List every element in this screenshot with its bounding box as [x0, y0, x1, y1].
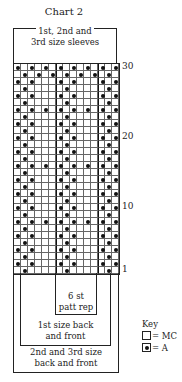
chart-cell-mc [84, 176, 91, 183]
chart-cell-a [98, 260, 105, 267]
chart-cell-mc [91, 120, 98, 127]
chart-cell-mc [42, 134, 49, 141]
chart-cell-mc [56, 155, 63, 162]
chart-cell-mc [91, 106, 98, 113]
chart-cell-a [56, 64, 63, 71]
chart-cell-mc [70, 85, 77, 92]
chart-cell-mc [112, 71, 119, 78]
chart-cell-a [21, 113, 28, 120]
chart-cell-a [84, 106, 91, 113]
chart-cell-mc [35, 246, 42, 253]
chart-cell-mc [28, 169, 35, 176]
chart-cell-mc [35, 232, 42, 239]
chart-cell-mc [70, 127, 77, 134]
chart-cell-mc [35, 99, 42, 106]
chart-cell-mc [42, 141, 49, 148]
chart-cell-mc [42, 260, 49, 267]
chart-cell-mc [42, 113, 49, 120]
chart-cell-mc [14, 85, 21, 92]
chart-cell-mc [112, 169, 119, 176]
chart-cell-mc [112, 183, 119, 190]
chart-cell-mc [105, 162, 112, 169]
chart-cell-mc [49, 218, 56, 225]
chart-cell-mc [49, 85, 56, 92]
chart-cell-mc [105, 120, 112, 127]
chart-cell-a [112, 232, 119, 239]
chart-cell-mc [98, 127, 105, 134]
chart-cell-a [14, 176, 21, 183]
chart-cell-a [112, 148, 119, 155]
chart-cell-a [63, 99, 70, 106]
chart-cell-mc [91, 190, 98, 197]
chart-cell-mc [112, 113, 119, 120]
chart-cell-mc [35, 64, 42, 71]
chart-cell-mc [56, 169, 63, 176]
chart-cell-a [63, 85, 70, 92]
chart-cell-a [98, 64, 105, 71]
chart-cell-mc [14, 113, 21, 120]
chart-cell-a [21, 197, 28, 204]
chart-cell-mc [105, 246, 112, 253]
chart-cell-mc [91, 92, 98, 99]
chart-cell-mc [21, 134, 28, 141]
chart-cell-a [21, 127, 28, 134]
chart-cell-mc [35, 127, 42, 134]
chart-cell-a [98, 162, 105, 169]
chart-cell-mc [70, 169, 77, 176]
chart-cell-mc [70, 197, 77, 204]
chart-cell-mc [42, 225, 49, 232]
chart-cell-mc [70, 253, 77, 260]
chart-cell-mc [91, 64, 98, 71]
chart-cell-a [28, 148, 35, 155]
chart-cell-mc [91, 162, 98, 169]
chart-cell-a [56, 218, 63, 225]
chart-cell-a [70, 92, 77, 99]
chart-cell-mc [42, 127, 49, 134]
chart-cell-a [28, 120, 35, 127]
chart-cell-mc [112, 211, 119, 218]
chart-cell-mc [56, 71, 63, 78]
chart-key: Key = MC = A [142, 318, 177, 354]
chart-cell-mc [42, 176, 49, 183]
chart-cell-mc [105, 218, 112, 225]
chart-cell-mc [42, 197, 49, 204]
chart-cell-mc [21, 148, 28, 155]
chart-cell-mc [14, 211, 21, 218]
chart-cell-a [70, 64, 77, 71]
chart-cell-mc [49, 148, 56, 155]
chart-cell-mc [49, 176, 56, 183]
chart-cell-mc [14, 197, 21, 204]
chart-cell-mc [42, 120, 49, 127]
chart-cell-mc [112, 155, 119, 162]
chart-cell-mc [77, 211, 84, 218]
mc-swatch-icon [142, 331, 151, 340]
chart-cell-mc [35, 106, 42, 113]
chart-cell-mc [56, 127, 63, 134]
chart-cell-mc [77, 225, 84, 232]
chart-cell-mc [35, 120, 42, 127]
chart-cell-mc [77, 127, 84, 134]
chart-cell-mc [28, 253, 35, 260]
chart-cell-a [28, 134, 35, 141]
chart-cell-a [14, 92, 21, 99]
chart-cell-mc [49, 225, 56, 232]
chart-cell-mc [21, 218, 28, 225]
chart-cell-a [56, 120, 63, 127]
chart-cell-mc [77, 239, 84, 246]
chart-cell-a [70, 218, 77, 225]
chart-cell-mc [49, 120, 56, 127]
chart-cell-mc [84, 183, 91, 190]
chart-cell-mc [77, 141, 84, 148]
chart-cell-a [56, 176, 63, 183]
chart-cell-a [28, 92, 35, 99]
chart-cell-mc [91, 113, 98, 120]
chart-cell-mc [77, 64, 84, 71]
chart-cell-mc [91, 134, 98, 141]
chart-cell-a [56, 134, 63, 141]
chart-cell-mc [63, 246, 70, 253]
chart-cell-mc [35, 169, 42, 176]
chart-cell-a [63, 183, 70, 190]
chart-cell-a [14, 232, 21, 239]
chart-cell-mc [35, 78, 42, 85]
chart-cell-a [105, 141, 112, 148]
